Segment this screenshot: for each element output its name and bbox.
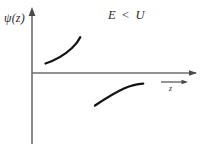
energy-condition-annotation: E < U: [108, 9, 146, 22]
y-axis-label: ψ(z): [4, 12, 25, 24]
y-axis-arrowhead-icon: [29, 7, 36, 16]
figure-canvas: ψ(z) E < U z: [0, 0, 200, 148]
x-axis-arrowhead-icon: [189, 70, 197, 76]
wavefunction-curve-upper: [46, 37, 81, 63]
wavefunction-curve-lower: [95, 84, 143, 106]
z-label-arrowhead-icon: [182, 80, 189, 84]
figure-graphics: [0, 0, 200, 148]
x-axis-label: z: [169, 85, 172, 93]
